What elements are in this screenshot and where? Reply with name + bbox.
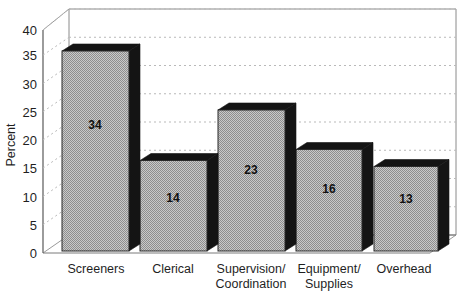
- y-axis-title: Percent: [4, 123, 18, 167]
- y-tick-0: 0: [30, 246, 37, 261]
- y-tick-10: 10: [23, 190, 37, 205]
- bar-group-supervision-coordination[interactable]: 23: [218, 103, 296, 251]
- y-tick-40: 40: [23, 23, 37, 38]
- bar-group-equipment-supplies[interactable]: 16: [296, 143, 373, 252]
- y-tick-15: 15: [23, 161, 37, 176]
- category-label-clerical: Clerical: [152, 262, 194, 276]
- bar-group-overhead[interactable]: 13: [374, 160, 449, 252]
- bar-side-face-supervision: [285, 103, 296, 251]
- chart-canvas: 0 5 10 15 20 25 30 35 40 Percent 13 16: [0, 0, 468, 296]
- bar-front-face-overhead[interactable]: [374, 167, 438, 252]
- y-tick-25: 25: [23, 105, 37, 120]
- y-tick-20: 20: [23, 133, 37, 148]
- bar-value-overhead: 13: [399, 192, 413, 206]
- bar-front-face-equipment[interactable]: [296, 150, 362, 252]
- bar-top-cap-overhead: [374, 160, 449, 167]
- x-axis-category-labels: Screeners Clerical Supervision/ Coordina…: [68, 262, 432, 291]
- bar-value-equipment: 16: [322, 182, 336, 196]
- category-label-screeners: Screeners: [68, 262, 125, 276]
- bar-side-face-equipment: [362, 143, 373, 252]
- y-axis-tick-labels: 0 5 10 15 20 25 30 35 40: [23, 23, 37, 261]
- bar-front-face-screeners[interactable]: [62, 51, 129, 251]
- category-label-equipment-line2: Supplies: [305, 277, 353, 291]
- y-tick-30: 30: [23, 77, 37, 92]
- bar-value-screeners: 34: [88, 118, 102, 132]
- bar-top-cap-supervision: [218, 103, 296, 110]
- bar-front-face-clerical[interactable]: [140, 161, 207, 252]
- category-label-overhead: Overhead: [377, 262, 432, 276]
- bar-value-supervision: 23: [244, 163, 258, 177]
- bar-top-cap-equipment: [296, 143, 373, 150]
- category-label-supervision-line1: Supervision/: [217, 262, 286, 276]
- bar-chart: 0 5 10 15 20 25 30 35 40 Percent 13 16: [0, 0, 468, 296]
- bar-side-face-overhead: [438, 160, 449, 252]
- bar-top-cap-screeners: [62, 44, 140, 51]
- bar-value-clerical: 14: [166, 191, 180, 205]
- bar-front-face-supervision[interactable]: [218, 110, 285, 251]
- bar-group-screeners[interactable]: 34: [62, 44, 140, 251]
- y-tick-5: 5: [30, 218, 37, 233]
- bar-side-face-screeners: [129, 44, 140, 251]
- bar-side-face-clerical: [207, 154, 218, 252]
- y-tick-35: 35: [23, 48, 37, 63]
- bar-group-clerical[interactable]: 14: [140, 154, 218, 252]
- category-label-equipment-line1: Equipment/: [297, 262, 361, 276]
- category-label-supervision-line2: Coordination: [216, 277, 287, 291]
- bar-top-cap-clerical: [140, 154, 218, 161]
